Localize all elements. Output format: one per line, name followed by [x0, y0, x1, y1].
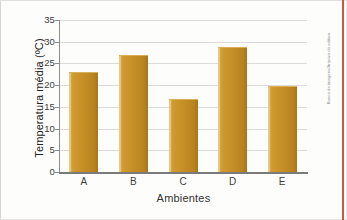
- y-axis-tick-label: 20: [44, 80, 55, 89]
- y-axis-tick-labels: 05101520253035: [38, 20, 55, 172]
- bar-highlight: [169, 100, 171, 172]
- figure-container: Temperatura média (ºC) 05101520253035 AB…: [0, 0, 347, 220]
- bar-highlight: [119, 56, 121, 172]
- y-axis-title-container: Temperatura média (ºC): [14, 20, 32, 172]
- bar-b: [119, 55, 148, 172]
- bar-highlight: [268, 87, 270, 172]
- y-axis-tick-label: 30: [44, 37, 55, 46]
- image-credit: Banco de imagens/Arquivo da editora: [326, 13, 331, 125]
- y-axis-tick-label: 35: [44, 15, 55, 24]
- x-axis-tick-label: A: [64, 176, 104, 187]
- x-axis-tick-label: B: [113, 176, 153, 187]
- bar-highlight: [69, 73, 71, 172]
- margin-rule-accent: [342, 0, 344, 220]
- page-frame-bottom: [0, 219, 347, 220]
- bar-highlight: [218, 48, 220, 172]
- y-axis-tick-label: 15: [44, 102, 55, 111]
- x-axis-tick-label: E: [262, 176, 302, 187]
- bar-c: [169, 99, 198, 172]
- x-axis-title: Ambientes: [59, 192, 308, 204]
- x-axis-line: [59, 172, 308, 174]
- bar-a: [69, 72, 98, 172]
- page-frame-left: [0, 0, 1, 220]
- bar-e: [268, 86, 297, 172]
- x-axis-tick-label: C: [163, 176, 203, 187]
- credit-container: Banco de imagens/Arquivo da editora: [322, 14, 334, 126]
- y-axis-tick-label: 10: [44, 124, 55, 133]
- y-axis-tick-label: 25: [44, 58, 55, 67]
- page-frame-top: [0, 0, 347, 1]
- bar-series: [59, 20, 308, 172]
- x-axis-tick-label: D: [213, 176, 253, 187]
- bar-d: [218, 47, 247, 172]
